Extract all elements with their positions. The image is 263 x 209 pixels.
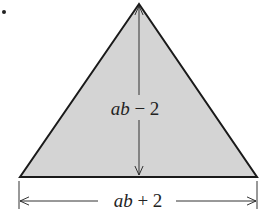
height-label: ab − 2 bbox=[111, 98, 160, 119]
bullet-marker bbox=[2, 10, 6, 14]
triangle-diagram: ab − 2 ab + 2 bbox=[0, 0, 263, 209]
base-label: ab + 2 bbox=[114, 190, 163, 209]
